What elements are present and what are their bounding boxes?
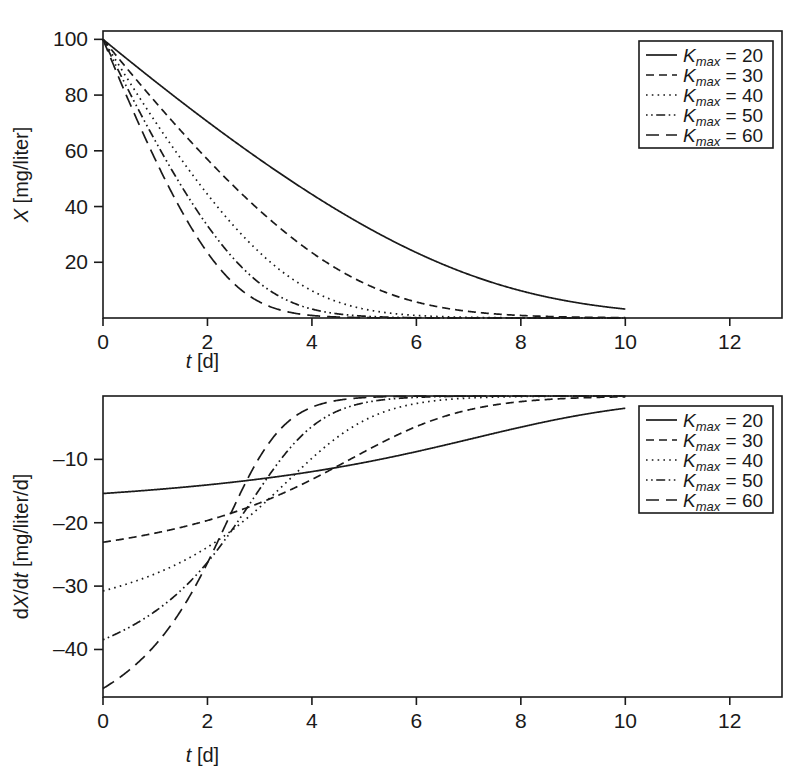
legend-label: Kmax = 60: [683, 490, 763, 514]
x-tick-label: 2: [202, 709, 214, 732]
y-tick-label: 100: [53, 27, 88, 50]
x-tick-label: 4: [306, 709, 318, 732]
y-tick-label: 60: [65, 139, 88, 162]
curve-series-2: [103, 396, 625, 591]
x-tick-label: 6: [411, 709, 423, 732]
x-tick-label: 8: [515, 330, 527, 353]
chart-svg-top: 02468101220406080100t [d]X [mg/liter]Kma…: [0, 0, 796, 392]
y-tick-label: –20: [53, 511, 88, 534]
y-tick-label: –10: [53, 447, 88, 470]
curve-series-3: [103, 396, 625, 640]
x-tick-label: 4: [306, 330, 318, 353]
curve-series-0: [103, 39, 625, 309]
x-tick-label: 12: [718, 330, 741, 353]
curve-series-4: [103, 396, 625, 688]
x-axis-title: t [d]: [186, 350, 219, 372]
chart-panel-top: 02468101220406080100t [d]X [mg/liter]Kma…: [0, 0, 796, 392]
y-tick-label: –40: [53, 637, 88, 660]
x-tick-label: 0: [97, 709, 109, 732]
legend-label: Kmax = 60: [683, 125, 763, 149]
x-axis-title: t [d]: [186, 744, 219, 766]
y-tick-label: 20: [65, 250, 88, 273]
x-tick-label: 6: [411, 330, 423, 353]
chart-svg-bottom: 024681012–10–20–30–40t [d]dX/dt [mg/lite…: [0, 392, 796, 784]
y-tick-label: 40: [65, 195, 88, 218]
x-tick-label: 10: [614, 709, 637, 732]
x-tick-label: 10: [614, 330, 637, 353]
figure-root: 02468101220406080100t [d]X [mg/liter]Kma…: [0, 0, 796, 784]
chart-panel-bottom: 024681012–10–20–30–40t [d]dX/dt [mg/lite…: [0, 392, 796, 784]
curve-series-4: [103, 39, 625, 318]
y-axis-title: dX/dt [mg/liter/d]: [10, 474, 32, 620]
y-tick-label: 80: [65, 83, 88, 106]
x-tick-label: 8: [515, 709, 527, 732]
curve-series-2: [103, 39, 625, 318]
y-axis-title: X [mg/liter]: [10, 127, 32, 224]
y-tick-label: –30: [53, 574, 88, 597]
x-tick-label: 0: [97, 330, 109, 353]
curve-series-1: [103, 39, 625, 317]
curve-series-1: [103, 397, 625, 542]
curve-series-3: [103, 39, 625, 318]
x-tick-label: 12: [718, 709, 741, 732]
